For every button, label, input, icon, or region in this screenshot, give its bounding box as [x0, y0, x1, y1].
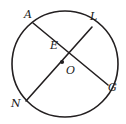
circle-outline	[12, 11, 118, 117]
point-label-e: E	[50, 40, 58, 51]
point-label-n: N	[11, 98, 21, 109]
point-label-l: L	[90, 11, 97, 22]
geometry-figure: A L N G E O	[0, 0, 126, 124]
point-label-o: O	[66, 65, 75, 76]
point-label-g: G	[108, 82, 117, 93]
point-label-a: A	[24, 9, 32, 20]
center-point-dot	[60, 60, 64, 64]
